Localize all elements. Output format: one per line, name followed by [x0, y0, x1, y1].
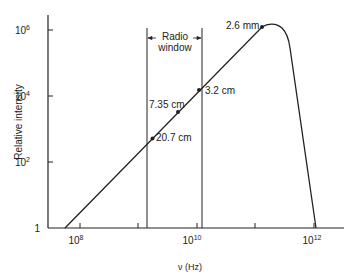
point-7-35cm [176, 110, 180, 114]
x-axis-title: ν (Hz) [178, 262, 202, 272]
x-tick-label-10-8: 108 [68, 234, 83, 246]
y-tick-label-1: 1 [34, 223, 40, 234]
label-2-6mm: 2.6 mm [226, 20, 259, 31]
label-3-2cm: 3.2 cm [205, 85, 235, 96]
x-ticks [80, 223, 314, 228]
point-2-6mm [260, 25, 264, 29]
label-7-35cm: 7.35 cm [149, 99, 185, 110]
x-tick-label-10-10: 1010 [183, 234, 202, 246]
y-tick-label-10-6: 106 [15, 24, 30, 36]
point-3-2cm [197, 88, 201, 92]
x-tick-label-10-12: 1012 [303, 234, 322, 246]
point-20-7cm [151, 137, 155, 141]
intensity-curve [65, 24, 316, 228]
radio-window-label-2: window [157, 42, 192, 53]
y-ticks [48, 30, 53, 162]
y-axis-title: Relative intensity [13, 84, 24, 160]
radio-window-label-1: Radio [162, 31, 189, 42]
chart: 1 102 104 106 108 1010 1012 Relative int… [0, 0, 356, 280]
label-20-7cm: 20.7 cm [156, 132, 192, 143]
